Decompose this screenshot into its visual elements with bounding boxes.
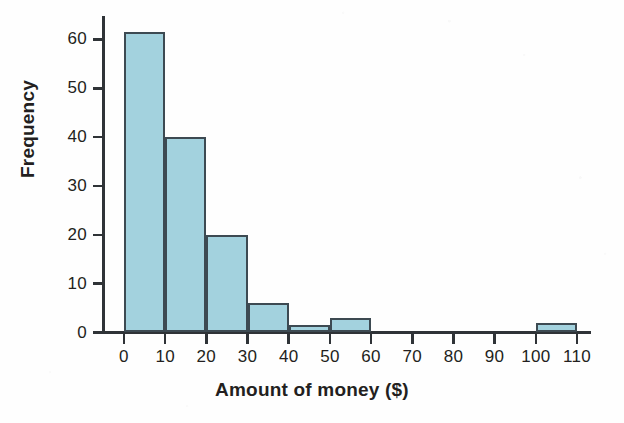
y-axis-tick [93,185,104,188]
x-axis-tick [452,333,455,344]
x-axis-tick-label: 100 [521,348,550,365]
x-axis-tick [576,333,579,344]
y-axis-tick-label: 0 [29,324,87,341]
histogram-bar [165,137,206,332]
x-axis-tick [123,333,126,344]
x-axis-tick [246,333,249,344]
x-axis-tick-label: 40 [279,348,299,365]
histogram-figure: 0102030405060 0102030405060708090100110 … [0,0,624,423]
y-axis-tick [93,282,104,285]
x-axis-tick [370,333,373,344]
y-axis-tick [93,87,104,90]
histogram-bar [536,323,577,333]
x-axis-tick [411,333,414,344]
x-axis-title: Amount of money ($) [0,379,624,401]
x-axis-tick-label: 90 [485,348,505,365]
x-axis-tick [164,333,167,344]
x-axis-tick-label: 110 [563,348,591,365]
y-axis-tick [93,38,104,41]
x-axis-tick [205,333,208,344]
y-axis-tick-label: 10 [29,275,87,292]
x-axis-tick-label: 30 [238,348,258,365]
x-axis-tick-label: 20 [197,348,217,365]
x-axis-tick-label: 50 [320,348,340,365]
y-axis-title: Frequency [17,39,39,219]
histogram-bar [289,325,330,332]
x-axis-tick [535,333,538,344]
x-axis-tick-label: 10 [155,348,175,365]
x-axis-tick-label: 70 [402,348,422,365]
histogram-bar [248,303,289,332]
x-axis-tick-label: 60 [361,348,381,365]
x-axis-tick-label: 0 [119,348,129,365]
y-axis-tick [93,136,104,139]
x-axis-tick [493,333,496,344]
y-axis-tick-label: 20 [29,226,87,243]
histogram-bar [206,235,247,333]
y-axis-line [102,16,105,334]
histogram-bar [330,318,371,333]
plot-area: 0102030405060 0102030405060708090100110 [0,0,624,423]
x-axis-tick-label: 80 [444,348,464,365]
y-axis-tick [93,331,104,334]
y-axis-tick [93,234,104,237]
histogram-bar [124,32,165,332]
x-axis-tick [329,333,332,344]
x-axis-tick [287,333,290,344]
